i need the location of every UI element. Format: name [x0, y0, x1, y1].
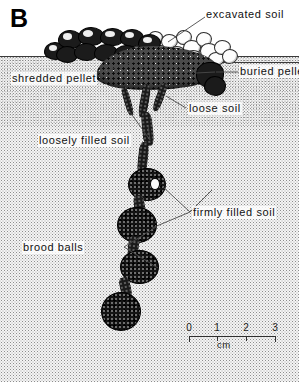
leader-shredded-pellet	[95, 60, 140, 74]
panel-letter: B	[10, 4, 28, 33]
label-brood-balls: brood balls	[22, 241, 84, 254]
leader-firmly-b	[152, 212, 190, 228]
leader-excavated-soil	[168, 17, 205, 42]
leader-brood-b	[124, 247, 158, 268]
scale-number-2: 2	[243, 322, 249, 333]
leader-firmly-a	[162, 186, 190, 212]
leader-loose-soil	[166, 96, 186, 108]
scale-tick-3	[275, 336, 276, 342]
scale-number-0: 0	[186, 322, 192, 333]
label-firmly-filled-soil: firmly filled soil	[192, 206, 276, 219]
label-shredded-pellet: shredded pellet	[11, 72, 97, 85]
label-loosely-filled-soil: loosely filled soil	[38, 134, 131, 147]
leader-brood-a	[124, 227, 156, 247]
scale-tick-0	[189, 336, 190, 342]
leader-buried-pellet	[196, 72, 215, 73]
figure-panel-b: B excavated soil buried pellet shredded …	[0, 0, 299, 382]
label-excavated-soil: excavated soil	[205, 8, 285, 21]
scale-tick-2	[246, 336, 247, 341]
scale-number-1: 1	[214, 322, 220, 333]
scale-axis-line	[189, 336, 275, 337]
leader-loosely-filled-a	[130, 112, 150, 140]
scale-bar: 0 1 2 3 cm	[185, 322, 281, 348]
label-buried-pellet: buried pellet	[239, 65, 299, 78]
label-loose-soil: loose soil	[188, 102, 242, 115]
scale-unit-label: cm	[217, 339, 231, 350]
scale-number-3: 3	[272, 322, 278, 333]
